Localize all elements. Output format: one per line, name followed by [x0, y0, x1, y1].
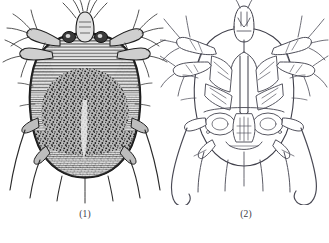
figure-2-leg-IV-right: [273, 140, 290, 159]
figure-1-body-group: [3, 0, 167, 203]
figure-1-caption: (1): [55, 209, 115, 219]
figure-2-leg-IV-left: [198, 140, 215, 159]
figure-1-leg-I-left: [27, 29, 60, 46]
figure-2-gnathosoma: [234, 0, 254, 42]
figure-2-leg-I-right: [272, 37, 311, 54]
figure-2-body-group: [160, 0, 328, 205]
figure-1-drawing: [0, 0, 170, 205]
figure-2-panel: [160, 0, 329, 205]
figure-2-caption: (2): [216, 209, 276, 219]
illustration-plate: (1) (2): [0, 0, 329, 243]
figure-1-panel: [0, 0, 170, 205]
figure-1-leg-I-right: [110, 29, 143, 46]
figure-2-leg-I-left: [177, 37, 216, 54]
figure-2-drawing: [160, 0, 329, 205]
